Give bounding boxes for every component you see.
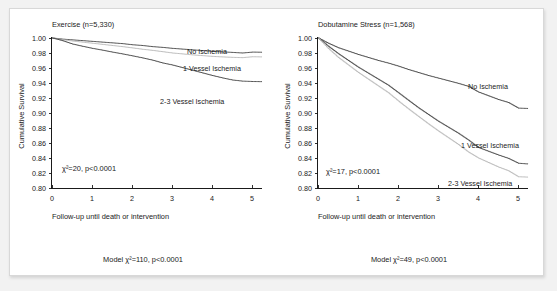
x-axis-ticklabels: 0 1 2 3 4 5 <box>50 194 254 203</box>
y-tick-label: 0.98 <box>298 49 312 58</box>
survival-curves <box>318 38 528 177</box>
x-tick-label: 0 <box>50 194 54 203</box>
curve-labels: No Ischemia 1 Vessel Ischemia 2-3 Vessel… <box>160 47 241 106</box>
curve-no-ischemia <box>318 38 528 109</box>
y-axis-ticklabels: 1.00 0.98 0.96 0.94 0.92 0.90 0.88 0.86 … <box>32 34 46 193</box>
y-tick-label: 0.84 <box>298 154 312 163</box>
x-tick-label: 3 <box>436 194 440 203</box>
curve-label-2-3-vessel: 2-3 Vessel Ischemia <box>160 97 224 106</box>
y-tick-label: 0.88 <box>298 124 312 133</box>
y-axis-ticklabels: 1.00 0.98 0.96 0.94 0.92 0.90 0.88 0.86 … <box>298 34 312 193</box>
y-tick-label: 0.90 <box>298 109 312 118</box>
survival-curves <box>52 38 262 82</box>
x-tick-label: 5 <box>250 194 254 203</box>
x-axis-label: Follow-up until death or intervention <box>52 212 169 221</box>
y-tick-label: 0.80 <box>32 184 46 193</box>
y-tick-label: 1.00 <box>32 34 46 43</box>
y-tick-label: 0.82 <box>32 169 46 178</box>
curve-label-no-ischemia: No Ischemia <box>187 47 227 56</box>
curve-label-2-3-vessel: 2-3 Vessel Ischemia <box>448 179 512 188</box>
y-tick-label: 1.00 <box>298 34 312 43</box>
exercise-chart-svg: Exercise (n=5,330) 1.00 0.98 0.96 0.94 0… <box>10 9 277 275</box>
y-tick-label: 0.92 <box>298 94 312 103</box>
y-tick-label: 0.82 <box>298 169 312 178</box>
model-chi-square-footer: Model χ²=49, p<0.0001 <box>371 255 447 264</box>
chart-title: Exercise (n=5,330) <box>52 20 114 29</box>
y-tick-label: 0.92 <box>32 94 46 103</box>
y-tick-label: 0.86 <box>298 139 312 148</box>
panel-dobutamine: Dobutamine Stress (n=1,568) 1.00 0.98 0.… <box>276 9 543 275</box>
dobutamine-chart-svg: Dobutamine Stress (n=1,568) 1.00 0.98 0.… <box>276 9 543 275</box>
figure-panel: Exercise (n=5,330) 1.00 0.98 0.96 0.94 0… <box>9 8 544 276</box>
x-axis-ticklabels: 0 1 2 3 4 5 <box>316 194 520 203</box>
curve-label-1-vessel: 1 Vessel Ischemia <box>183 64 241 73</box>
x-tick-label: 5 <box>516 194 520 203</box>
x-tick-label: 2 <box>396 194 400 203</box>
x-tick-label: 1 <box>356 194 360 203</box>
x-axis-tickmarks <box>52 185 252 189</box>
y-tick-label: 0.94 <box>298 79 312 88</box>
panel-exercise: Exercise (n=5,330) 1.00 0.98 0.96 0.94 0… <box>10 9 277 275</box>
curve-label-1-vessel: 1 Vessel Ischemia <box>461 141 519 150</box>
y-tick-label: 0.90 <box>32 109 46 118</box>
x-tick-label: 4 <box>476 194 480 203</box>
y-tick-label: 0.86 <box>32 139 46 148</box>
curve-2-3-vessel-ischemia <box>318 38 528 177</box>
y-tick-label: 0.84 <box>32 154 46 163</box>
curve-labels: No Ischemia 1 Vessel Ischemia 2-3 Vessel… <box>448 82 519 188</box>
curve-label-no-ischemia: No Ischemia <box>468 82 508 91</box>
figure-page: Exercise (n=5,330) 1.00 0.98 0.96 0.94 0… <box>0 0 557 291</box>
chi-square-annotation: χ²=20, p<0.0001 <box>62 164 116 173</box>
y-tick-label: 0.96 <box>298 64 312 73</box>
x-axis-label: Follow-up until death or intervention <box>318 212 435 221</box>
y-axis-label: Cumulative Survival <box>17 83 26 149</box>
x-tick-label: 4 <box>210 194 214 203</box>
chi-square-annotation: χ²=17, p<0.0001 <box>326 167 380 176</box>
model-chi-square-footer: Model χ²=110, p<0.0001 <box>103 255 183 264</box>
x-tick-label: 1 <box>90 194 94 203</box>
x-tick-label: 3 <box>170 194 174 203</box>
curve-2-3-vessel-ischemia <box>52 38 262 82</box>
y-tick-label: 0.80 <box>298 184 312 193</box>
x-tick-label: 2 <box>130 194 134 203</box>
y-tick-label: 0.88 <box>32 124 46 133</box>
chart-title: Dobutamine Stress (n=1,568) <box>318 20 415 29</box>
x-tick-label: 0 <box>316 194 320 203</box>
y-tick-label: 0.96 <box>32 64 46 73</box>
y-tick-label: 0.94 <box>32 79 46 88</box>
y-axis-label: Cumulative Survival <box>283 83 292 149</box>
y-tick-label: 0.98 <box>32 49 46 58</box>
